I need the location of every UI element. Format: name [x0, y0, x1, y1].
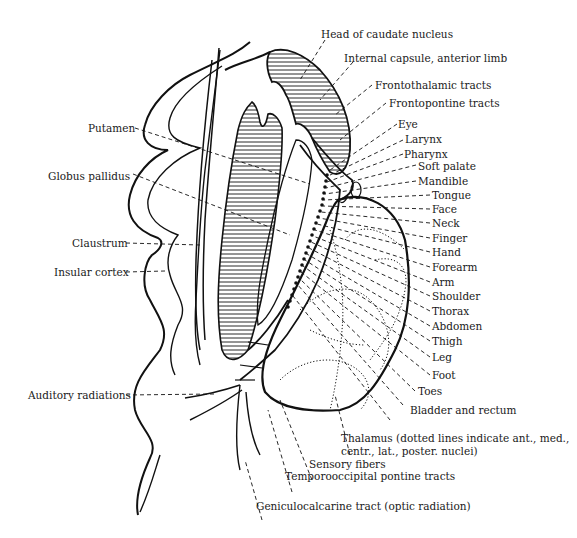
label-frontopontine: Frontopontine tracts: [389, 97, 500, 109]
label-mandible: Mandible: [418, 175, 468, 187]
label-thalamus-1: Thalamus (dotted lines indicate ant., me…: [341, 432, 569, 444]
label-arm: Arm: [432, 276, 455, 288]
label-thigh: Thigh: [432, 335, 463, 347]
label-soft-palate: Soft palate: [418, 160, 476, 172]
label-neck: Neck: [432, 217, 460, 229]
label-thorax: Thorax: [432, 305, 469, 317]
label-globus-pallidus: Globus pallidus: [48, 170, 130, 182]
label-pharynx: Pharynx: [404, 148, 448, 160]
label-eye: Eye: [398, 118, 418, 130]
label-claustrum: Claustrum: [72, 237, 128, 249]
label-thalamus-2: centr., lat., poster. nuclei): [341, 445, 478, 457]
label-forearm: Forearm: [432, 261, 478, 273]
label-head-of-caudate: Head of caudate nucleus: [321, 28, 453, 40]
label-insular-cortex: Insular cortex: [54, 266, 129, 278]
label-toes: Toes: [418, 385, 442, 397]
label-frontothalamic: Frontothalamic tracts: [375, 79, 491, 91]
label-bladder-rectum: Bladder and rectum: [410, 404, 516, 416]
thalamus: [262, 197, 409, 411]
label-larynx: Larynx: [405, 133, 442, 145]
label-sensory-fibers: Sensory fibers: [309, 458, 386, 470]
label-foot: Foot: [432, 369, 456, 381]
label-leg: Leg: [432, 351, 452, 363]
lower-fibers: [140, 385, 260, 512]
label-hand: Hand: [432, 246, 461, 258]
label-finger: Finger: [432, 232, 467, 244]
label-auditory-radiations: Auditory radiations: [28, 389, 131, 401]
label-putamen: Putamen: [88, 122, 135, 134]
label-tongue: Tongue: [432, 189, 471, 201]
label-geniculocalcarine: Geniculocalcarine tract (optic radiation…: [256, 500, 471, 512]
thalamic-nuclei-dotted: [280, 229, 406, 410]
label-shoulder: Shoulder: [432, 290, 480, 302]
label-face: Face: [432, 203, 457, 215]
putamen: [218, 102, 282, 359]
label-temporooccipital: Temporooccipital pontine tracts: [285, 470, 455, 482]
label-internal-capsule-anterior: Internal capsule, anterior limb: [344, 52, 507, 64]
label-abdomen: Abdomen: [432, 320, 482, 332]
